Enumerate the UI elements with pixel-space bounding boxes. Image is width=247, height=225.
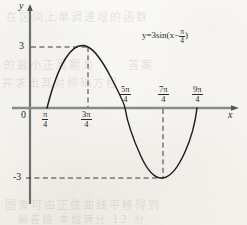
sine-curve [47,46,197,178]
fraction-denominator: 4 [158,95,169,104]
fraction-denominator: 4 [120,95,131,104]
fraction-9pi-over-4: 9π 4 [192,85,203,103]
x-axis-label: x [228,110,232,120]
fraction-denominator: 4 [192,95,203,104]
x-tick-label-7pi-over-4: 7π 4 [158,85,169,103]
x-tick-label-3pi-over-4: 3π 4 [81,110,92,128]
fraction-denominator: 4 [81,120,92,129]
fraction-7pi-over-4: 7π 4 [158,85,169,103]
y-tick-label-minus-3: -3 [13,172,21,182]
equation-left-part: y=3sin(x− [142,30,179,40]
y-tick-label-3: 3 [19,41,24,51]
fraction-5pi-over-4: 5π 4 [120,85,131,103]
plot-canvas [0,0,247,225]
y-axis-arrowhead [27,4,33,11]
origin-label: 0 [21,110,26,120]
x-tick-label-5pi-over-4: 5π 4 [120,85,131,103]
y-axis-label: y [19,1,23,11]
fraction-denominator: 4 [42,120,48,129]
x-tick-label-9pi-over-4: 9π 4 [192,85,203,103]
equation-right-part: ) [185,30,188,40]
figure-container: 在区间上单调递增的函数 的最小正周期为 答案 并求出其对称轴方程 图象可由正弦曲… [0,0,247,225]
x-tick-label-pi-over-4: π 4 [42,110,48,128]
equation-annotation: y=3sin(x−π4) [142,28,188,44]
fraction-3pi-over-4: 3π 4 [81,110,92,128]
fraction-pi-over-4: π 4 [42,110,48,128]
